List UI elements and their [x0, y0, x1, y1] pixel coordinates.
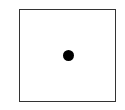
center-pip-dot: [63, 50, 74, 61]
die-face-square: [19, 9, 116, 102]
